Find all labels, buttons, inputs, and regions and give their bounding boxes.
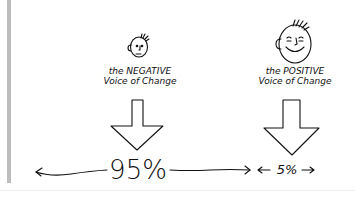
negative-voice-label: the NEGATIVE Voice of Change	[100, 66, 180, 86]
positive-percent: 5%	[272, 162, 302, 178]
positive-voice-label: the POSITIVE Voice of Change	[255, 66, 335, 86]
frowning-face-icon	[128, 34, 149, 57]
smiling-face-icon	[276, 20, 311, 63]
positive-down-arrow	[264, 100, 319, 155]
negative-percent: 95%	[106, 155, 170, 185]
negative-label-line1: the NEGATIVE	[100, 66, 180, 76]
negative-label-line2: Voice of Change	[100, 76, 180, 86]
negative-down-arrow	[111, 100, 163, 150]
positive-label-line1: the POSITIVE	[255, 66, 335, 76]
positive-label-line2: Voice of Change	[255, 76, 335, 86]
